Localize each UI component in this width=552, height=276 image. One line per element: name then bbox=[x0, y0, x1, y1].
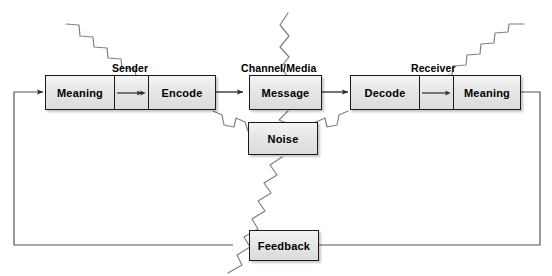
receiver-cell-meaning[interactable]: Meaning bbox=[454, 76, 520, 109]
group-label-channel: Channel/Media bbox=[241, 62, 316, 74]
sender-box: Meaning Encode bbox=[45, 75, 216, 110]
feedback-loop-right bbox=[318, 92, 540, 245]
receiver-cell-decode[interactable]: Decode bbox=[351, 76, 419, 109]
noise-label: Noise bbox=[268, 133, 299, 145]
message-label: Message bbox=[262, 87, 310, 99]
receiver-inner-arrow-icon bbox=[420, 88, 453, 98]
feedback-label: Feedback bbox=[258, 240, 310, 252]
receiver-box: Decode Meaning bbox=[350, 75, 521, 110]
group-label-sender: Sender bbox=[112, 62, 148, 74]
group-label-receiver: Receiver bbox=[411, 62, 456, 74]
sender-cell-encode[interactable]: Encode bbox=[149, 76, 215, 109]
receiver-decode-label: Decode bbox=[365, 87, 406, 99]
sender-meaning-label: Meaning bbox=[57, 87, 103, 99]
sender-cell-meaning[interactable]: Meaning bbox=[46, 76, 114, 109]
feedback-box[interactable]: Feedback bbox=[249, 230, 319, 261]
receiver-cell-arrow bbox=[420, 76, 453, 109]
feedback-loop-left bbox=[14, 92, 233, 245]
receiver-meaning-label: Meaning bbox=[464, 87, 510, 99]
sender-inner-arrow-icon bbox=[115, 88, 148, 98]
noise-zigzag-encode-to-noise bbox=[213, 111, 248, 131]
sender-encode-label: Encode bbox=[162, 87, 203, 99]
communication-model-diagram: Sender Meaning Encode Channel/Media Mess… bbox=[0, 0, 552, 276]
noise-box[interactable]: Noise bbox=[248, 122, 318, 155]
sender-cell-arrow bbox=[115, 76, 148, 109]
noise-zigzag-decode-to-noise bbox=[313, 111, 348, 131]
message-box[interactable]: Message bbox=[249, 75, 322, 110]
